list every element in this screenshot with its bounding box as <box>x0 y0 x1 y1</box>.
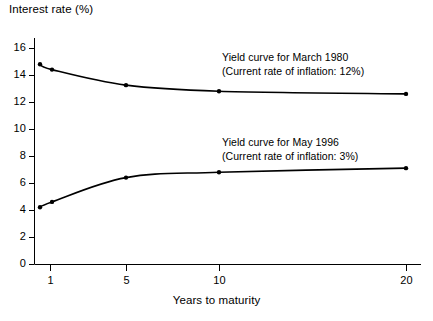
series-line-1996 <box>40 168 406 207</box>
y-tick-label: 10 <box>2 122 26 134</box>
y-tick-label: 6 <box>2 176 26 188</box>
data-point-marker <box>217 89 221 93</box>
data-point-marker <box>50 67 54 71</box>
series-line-1980 <box>40 64 406 94</box>
data-point-marker <box>50 200 54 204</box>
yield-curve-chart: Interest rate (%) Years to maturity Yiel… <box>0 0 433 321</box>
data-point-marker <box>404 166 408 170</box>
y-tick-label: 14 <box>2 68 26 80</box>
data-point-marker <box>38 62 42 66</box>
y-tick-label: 4 <box>2 203 26 215</box>
y-tick-label: 0 <box>2 257 26 269</box>
x-tick-label: 5 <box>112 274 142 286</box>
y-tick-label: 12 <box>2 95 26 107</box>
data-point-marker <box>38 205 42 209</box>
plot-area <box>0 0 433 321</box>
y-tick-label: 16 <box>2 41 26 53</box>
x-tick-label: 20 <box>392 274 422 286</box>
data-point-marker <box>404 92 408 96</box>
data-point-marker <box>217 170 221 174</box>
x-tick-label: 10 <box>205 274 235 286</box>
data-point-marker <box>124 83 128 87</box>
x-tick-label: 1 <box>36 274 66 286</box>
y-tick-label: 2 <box>2 230 26 242</box>
y-tick-label: 8 <box>2 149 26 161</box>
data-point-marker <box>124 175 128 179</box>
